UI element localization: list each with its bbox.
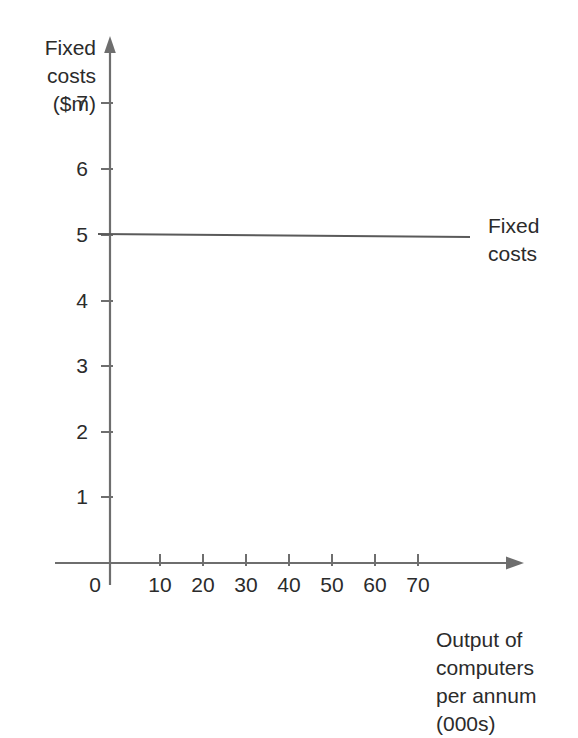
y-axis-arrow-icon [104, 36, 116, 53]
y-tick-marks [101, 103, 113, 497]
x-tick-label-30: 30 [224, 572, 268, 599]
y-tick-label-7: 7 [62, 90, 88, 117]
y-tick-label-2: 2 [62, 419, 88, 446]
x-tick-marks [160, 554, 418, 566]
y-tick-label-6: 6 [62, 156, 88, 183]
x-axis-title-line-2: computers [436, 656, 534, 679]
y-axis [104, 36, 116, 585]
x-axis-title-line-3: per annum [436, 684, 536, 707]
x-tick-label-0: 0 [73, 572, 117, 599]
x-tick-label-70: 70 [396, 572, 440, 599]
y-axis-title-line-1: Fixed [45, 36, 96, 59]
x-axis-title: Output ofcomputersper annum(000s) [436, 626, 536, 738]
series-label-line-1: Fixed [488, 214, 539, 237]
x-axis-title-line-1: Output of [436, 628, 522, 651]
series-label-line-2: costs [488, 242, 537, 265]
y-tick-label-3: 3 [62, 353, 88, 380]
y-axis-title-line-2: costs [47, 64, 96, 87]
x-axis-title-line-4: (000s) [436, 712, 496, 735]
x-axis-arrow-icon [506, 557, 524, 570]
x-tick-label-60: 60 [353, 572, 397, 599]
series-label-fixed-costs: Fixedcosts [488, 212, 539, 268]
x-tick-label-10: 10 [138, 572, 182, 599]
series-line-fixed-costs [98, 234, 470, 237]
y-tick-label-1: 1 [62, 484, 88, 511]
y-tick-label-4: 4 [62, 288, 88, 315]
y-tick-label-5: 5 [62, 222, 88, 249]
x-tick-label-40: 40 [267, 572, 311, 599]
x-tick-label-20: 20 [181, 572, 225, 599]
x-tick-label-50: 50 [310, 572, 354, 599]
